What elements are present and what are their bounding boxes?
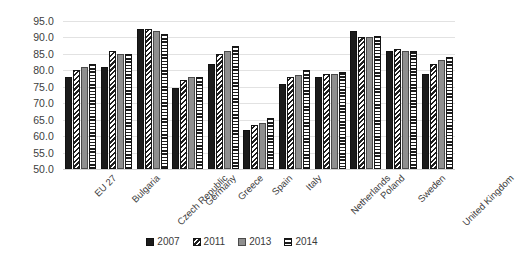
- bar-group: [65, 21, 96, 169]
- legend-label: 2014: [295, 237, 317, 247]
- bar-group: [386, 21, 417, 169]
- x-axis-label: Greece: [236, 173, 265, 202]
- legend-item: 2014: [284, 237, 317, 247]
- bar-2011: [109, 51, 116, 169]
- bar-2014: [161, 34, 168, 169]
- bar-2013: [153, 31, 160, 169]
- bar-2014: [89, 64, 96, 169]
- y-axis-tick-label: 60.0: [33, 131, 54, 142]
- bar-2014: [446, 57, 453, 169]
- bar-2007: [101, 67, 108, 169]
- bar-2014: [125, 54, 132, 169]
- bar-2011: [145, 29, 152, 169]
- x-axis-label: United Kingdom: [461, 173, 516, 228]
- bar-2014: [374, 36, 381, 169]
- y-axis-tick-label: 75.0: [33, 82, 54, 93]
- bar-2007: [65, 77, 72, 169]
- bar-2011: [73, 70, 80, 169]
- bar-2007: [243, 130, 250, 169]
- y-axis-tick-label: 80.0: [33, 65, 54, 76]
- bar-2011: [394, 49, 401, 169]
- bar-group: [350, 21, 381, 169]
- bar-group: [101, 21, 132, 169]
- bar-2007: [386, 51, 393, 169]
- bar-2007: [422, 74, 429, 169]
- legend-swatch-icon: [238, 238, 246, 246]
- bar-2013: [438, 60, 445, 169]
- bar-2014: [196, 77, 203, 169]
- bar-2007: [315, 77, 322, 169]
- legend-item: 2013: [238, 237, 271, 247]
- bar-2013: [81, 67, 88, 169]
- y-axis: 95.090.085.080.075.070.065.060.055.050.0: [0, 21, 58, 169]
- bar-group: [208, 21, 239, 169]
- bar-2013: [402, 51, 409, 169]
- x-axis-label: Italy: [304, 173, 323, 192]
- plot-area: [63, 21, 455, 169]
- bar-2011: [430, 64, 437, 169]
- bar-2007: [350, 31, 357, 169]
- x-axis-labels: EU 27BulgariaCzech RepublicGermanyGreece…: [63, 169, 455, 227]
- bar-2011: [180, 80, 187, 169]
- bar-group: [137, 21, 168, 169]
- x-axis-label: Bulgaria: [131, 173, 162, 204]
- legend-swatch-icon: [193, 238, 201, 246]
- bar-2013: [366, 37, 373, 169]
- bar-2007: [279, 84, 286, 170]
- bar-2007: [137, 29, 144, 169]
- legend-swatch-icon: [146, 238, 154, 246]
- y-axis-tick-label: 95.0: [33, 16, 54, 27]
- bar-2011: [251, 125, 258, 169]
- bar-2013: [188, 77, 195, 169]
- y-axis-tick-label: 50.0: [33, 164, 54, 175]
- bar-2011: [216, 54, 223, 169]
- y-axis-tick-label: 85.0: [33, 49, 54, 60]
- bar-2014: [410, 51, 417, 169]
- legend-label: 2011: [204, 237, 226, 247]
- bar-2014: [339, 72, 346, 169]
- bar-2013: [295, 75, 302, 169]
- bar-2013: [224, 51, 231, 169]
- bar-group: [243, 21, 274, 169]
- bar-group: [422, 21, 453, 169]
- bar-2011: [323, 74, 330, 169]
- bar-2007: [208, 64, 215, 169]
- legend-label: 2007: [157, 237, 179, 247]
- x-axis-label: Sweden: [416, 173, 447, 204]
- legend-swatch-icon: [284, 238, 292, 246]
- y-axis-tick-label: 55.0: [33, 147, 54, 158]
- legend-item: 2011: [193, 237, 226, 247]
- y-axis-tick-label: 70.0: [33, 98, 54, 109]
- y-axis-tick-label: 65.0: [33, 114, 54, 125]
- y-axis-tick-label: 90.0: [33, 32, 54, 43]
- chart-legend: 2007201120132014: [0, 237, 464, 247]
- bar-2013: [259, 123, 266, 169]
- bar-group: [315, 21, 346, 169]
- bar-2013: [117, 54, 124, 169]
- bar-2014: [232, 46, 239, 169]
- x-axis-label: Spain: [270, 173, 294, 197]
- bar-2007: [172, 88, 179, 169]
- bar-2011: [287, 77, 294, 169]
- bar-2014: [303, 70, 310, 169]
- legend-label: 2013: [249, 237, 271, 247]
- legend-item: 2007: [146, 237, 179, 247]
- bar-groups: [63, 21, 455, 169]
- bar-group: [279, 21, 310, 169]
- bar-2014: [267, 118, 274, 169]
- bar-group: [172, 21, 203, 169]
- bar-2013: [331, 74, 338, 169]
- x-axis-label: EU 27: [93, 173, 118, 198]
- bar-2011: [358, 37, 365, 169]
